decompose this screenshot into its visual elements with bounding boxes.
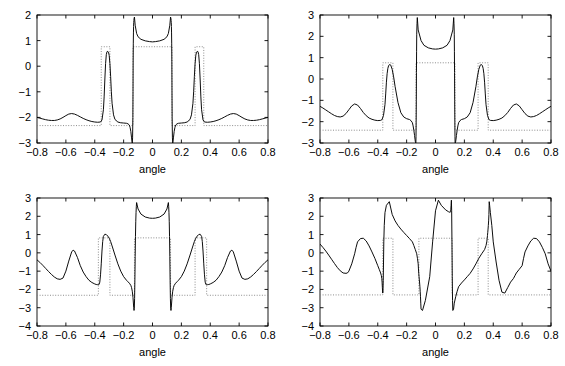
x-tick-label: 0.8 <box>543 329 558 341</box>
axes-frame <box>37 15 268 143</box>
y-tick-label: 0 <box>25 247 31 259</box>
x-axis-label: angle <box>422 163 449 175</box>
y-tick-label: 2 <box>308 210 314 222</box>
axes-frame <box>320 15 551 143</box>
y-tick-label: 1 <box>25 229 31 241</box>
step-reference-curve <box>320 63 551 130</box>
x-tick-label: −0.6 <box>55 329 77 341</box>
x-tick-label: 0.6 <box>231 329 246 341</box>
x-tick-label: 0.2 <box>174 146 189 158</box>
y-tick-label: −3 <box>18 137 31 149</box>
axes-frame <box>320 198 551 326</box>
x-tick-label: 0 <box>149 146 155 158</box>
x-axis-label: angle <box>422 346 449 358</box>
x-tick-label: 0.4 <box>203 329 218 341</box>
y-tick-label: 0 <box>308 247 314 259</box>
y-tick-label: 1 <box>308 229 314 241</box>
y-tick-label: −4 <box>301 320 314 332</box>
chart-panel-bottom-right: −0.8−0.6−0.4−0.200.20.40.60.8−4−3−2−1012… <box>283 183 565 366</box>
y-tick-label: −1 <box>301 265 314 277</box>
y-tick-label: 1 <box>308 52 314 64</box>
figure-canvas: −0.8−0.6−0.4−0.200.20.40.60.8−3−2−1012an… <box>0 0 565 366</box>
y-tick-label: 3 <box>25 192 31 204</box>
x-tick-label: −0.4 <box>367 146 389 158</box>
y-tick-label: −3 <box>18 302 31 314</box>
y-tick-label: −3 <box>301 137 314 149</box>
x-tick-label: 0.8 <box>543 146 558 158</box>
chart-panel-top-right: −0.8−0.6−0.4−0.200.20.40.60.8−3−2−10123a… <box>283 0 565 183</box>
y-tick-label: 0 <box>25 60 31 72</box>
x-tick-label: −0.4 <box>84 329 106 341</box>
x-tick-label: −0.4 <box>84 146 106 158</box>
chart-panel-bottom-left: −0.8−0.6−0.4−0.200.20.40.60.8−4−3−2−1012… <box>0 183 283 366</box>
x-tick-label: 0.4 <box>203 146 218 158</box>
x-tick-label: −0.4 <box>367 329 389 341</box>
axes-frame <box>37 198 268 326</box>
y-tick-label: −4 <box>18 320 31 332</box>
x-tick-label: 0.8 <box>260 146 275 158</box>
y-tick-label: 2 <box>308 30 314 42</box>
y-tick-label: −1 <box>18 86 31 98</box>
x-tick-label: −0.2 <box>113 146 135 158</box>
x-tick-label: 0.8 <box>260 329 275 341</box>
y-tick-label: 3 <box>308 192 314 204</box>
x-tick-label: −0.6 <box>338 329 360 341</box>
x-tick-label: 0.4 <box>486 146 501 158</box>
y-tick-label: −3 <box>301 302 314 314</box>
step-reference-curve <box>320 238 551 295</box>
x-tick-label: 0.6 <box>514 146 529 158</box>
y-tick-label: 3 <box>308 9 314 21</box>
x-tick-label: −0.2 <box>396 329 418 341</box>
x-tick-label: −0.6 <box>338 146 360 158</box>
estimate-curve <box>320 18 551 143</box>
x-tick-label: 0 <box>432 329 438 341</box>
y-tick-label: −2 <box>301 283 314 295</box>
x-tick-label: 0.4 <box>486 329 501 341</box>
x-tick-label: −0.2 <box>113 329 135 341</box>
step-reference-curve <box>37 238 268 295</box>
x-tick-label: 0 <box>149 329 155 341</box>
y-tick-label: 0 <box>308 73 314 85</box>
y-tick-label: −1 <box>301 94 314 106</box>
y-tick-label: −2 <box>18 283 31 295</box>
estimate-curve <box>320 200 551 310</box>
x-tick-label: −0.6 <box>55 146 77 158</box>
y-tick-label: −2 <box>18 111 31 123</box>
x-tick-label: 0.6 <box>231 146 246 158</box>
x-axis-label: angle <box>139 163 166 175</box>
y-tick-label: 1 <box>25 35 31 47</box>
y-tick-label: 2 <box>25 210 31 222</box>
x-tick-label: 0.2 <box>457 329 472 341</box>
x-tick-label: 0.6 <box>514 329 529 341</box>
y-tick-label: −1 <box>18 265 31 277</box>
x-tick-label: −0.2 <box>396 146 418 158</box>
y-tick-label: 2 <box>25 9 31 21</box>
chart-panel-top-left: −0.8−0.6−0.4−0.200.20.40.60.8−3−2−1012an… <box>0 0 283 183</box>
x-tick-label: 0 <box>432 146 438 158</box>
estimate-curve <box>37 203 268 311</box>
y-tick-label: −2 <box>301 116 314 128</box>
x-axis-label: angle <box>139 346 166 358</box>
estimate-curve <box>37 17 268 143</box>
x-tick-label: 0.2 <box>174 329 189 341</box>
x-tick-label: 0.2 <box>457 146 472 158</box>
